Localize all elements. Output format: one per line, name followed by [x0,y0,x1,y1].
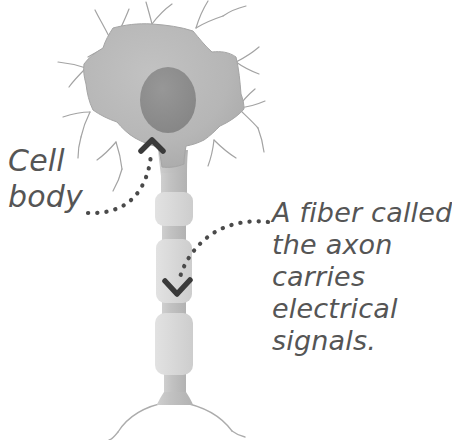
axon-label: A fiber called the axon carries electric… [272,199,452,359]
cell-body-label-line: Cell [8,146,83,176]
axon-label-line: signals. [272,327,452,354]
axon-label-line: A fiber called [272,199,452,226]
cell-body-label-line: body [8,182,83,212]
axon-label-line: electrical [272,295,452,322]
cell-body-label: Cell body [8,146,83,218]
axon-label-line: carries [272,263,452,290]
myelin-segment [155,192,193,226]
myelin-segment [155,313,193,375]
axon-terminals-group [109,402,245,440]
axon-label-line: the axon [272,231,452,258]
cell-body-leader [88,140,163,213]
nucleus-shape [140,67,196,133]
